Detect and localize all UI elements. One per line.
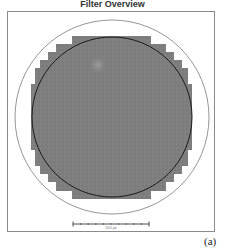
filter-overview-figure — [0, 0, 225, 249]
bright-spot — [88, 54, 108, 76]
panel-label: (a) — [204, 235, 216, 248]
scale-bar-label: 1000 µm — [73, 226, 149, 230]
